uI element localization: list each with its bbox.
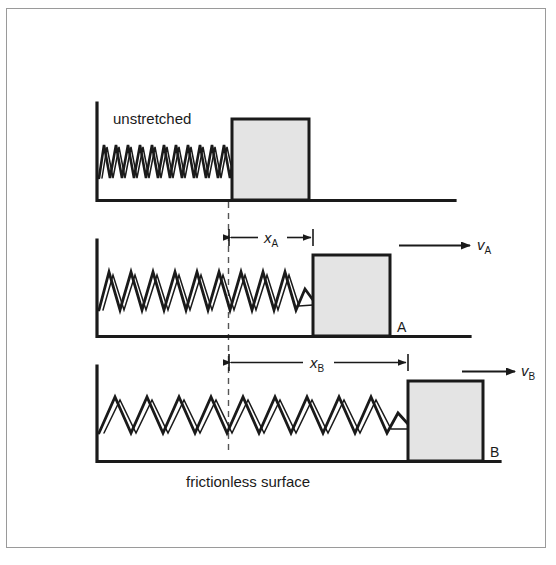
frictionless-surface-label: frictionless surface (186, 473, 310, 490)
spring-unstretched (99, 145, 232, 178)
velocity-a-label: vA (477, 236, 492, 256)
panel-unstretched: unstretched (97, 103, 455, 201)
panel-a: xA vA A (97, 229, 492, 337)
xa-subscript: A (272, 238, 279, 249)
spring-a (99, 272, 313, 310)
dimension-xb-label: xB (309, 354, 325, 374)
velocity-arrow-b: vB (462, 362, 536, 382)
dimension-xa-label: xA (263, 229, 279, 249)
dimension-xa: xA (229, 229, 313, 249)
xb-subscript: B (318, 363, 325, 374)
screenshot-root: unstretched xA vA (0, 0, 556, 565)
spring-b (99, 397, 408, 433)
vb-subscript: B (529, 371, 536, 382)
va-subscript: A (485, 245, 492, 256)
velocity-b-label: vB (521, 362, 536, 382)
block-unstretched (232, 119, 309, 200)
velocity-arrow-a: vA (399, 236, 492, 256)
block-a-label: A (397, 319, 407, 335)
block-b (408, 381, 483, 461)
panel-b: xB vB B (97, 354, 536, 462)
block-b-label: B (490, 444, 499, 460)
unstretched-label: unstretched (113, 110, 191, 127)
block-a (313, 255, 390, 336)
spring-block-diagram: unstretched xA vA (0, 0, 556, 565)
dimension-xb: xB (229, 354, 408, 374)
